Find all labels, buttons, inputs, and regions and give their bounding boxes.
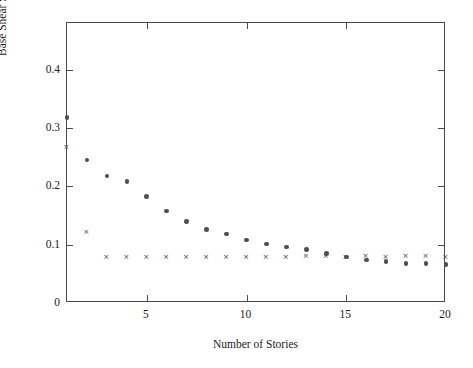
data-point-circle [224,232,229,237]
data-point-circle [125,179,130,184]
data-point-circle [144,194,149,199]
data-point-circle [284,245,289,250]
y-tick-label: 0.3 [26,121,60,133]
data-point-circle [65,115,70,120]
y-tick-label: 0.1 [26,238,60,250]
data-point-circle [404,261,409,266]
data-point-layer: ×××××××××××××××××××× [67,23,444,301]
data-point-circle [204,227,209,232]
y-axis-title: Base Shear Strength Coefficient [0,0,8,56]
x-tick-label: 5 [126,308,166,320]
data-point-circle [424,261,429,266]
data-point-circle [105,174,110,179]
plot-area: ×××××××××××××××××××× [66,22,445,302]
x-axis-title: Number of Stories [66,338,445,350]
y-tick-label: 0.2 [26,179,60,191]
data-point-circle [244,238,249,243]
data-point-circle [444,262,449,267]
y-tick-label: 0.4 [26,63,60,75]
x-tick-label: 10 [226,308,266,320]
data-point-circle [164,209,169,214]
data-point-circle [264,242,269,247]
x-tick-label: 15 [325,308,365,320]
data-point-circle [184,219,189,224]
y-tick-label: 0 [26,296,60,308]
chart-figure: Base Shear Strength Coefficient Number o… [0,0,473,368]
data-point-circle [85,158,90,163]
x-tick-label: 20 [425,308,465,320]
